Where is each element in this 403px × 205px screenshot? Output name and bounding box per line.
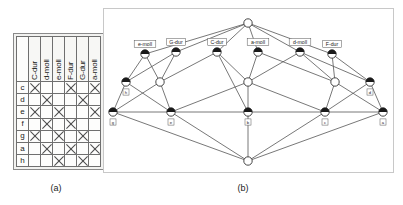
node-label-text: d-moll	[293, 39, 307, 45]
cell-e-F-dur	[65, 106, 77, 118]
table-row: d	[17, 94, 101, 106]
cross-mark-icon	[77, 131, 88, 142]
cell-e-a-moll	[89, 106, 101, 118]
column-header-e-moll: e-moll	[53, 37, 65, 82]
cross-mark-icon	[89, 106, 100, 117]
cross-mark-icon	[29, 106, 40, 117]
cell-d-C-dur	[29, 94, 41, 106]
cross-table: C-dur d-moll e-moll F-dur G-dur	[16, 36, 101, 167]
column-header-label: d-moll	[41, 36, 52, 81]
table-row: h	[17, 155, 101, 167]
cell-h-a-moll	[89, 155, 101, 167]
cell-e-C-dur	[29, 106, 41, 118]
row-header-c: c	[17, 82, 29, 94]
column-header-d-moll: d-moll	[41, 37, 53, 82]
cell-h-F-dur	[65, 155, 77, 167]
cell-a-e-moll	[53, 142, 65, 154]
cell-g-G-dur	[77, 130, 89, 142]
cell-e-G-dur	[77, 106, 89, 118]
lattice-node-m-right[interactable]	[331, 78, 339, 86]
column-header-f-dur: F-dur	[65, 37, 77, 82]
cross-mark-icon	[29, 131, 40, 142]
cell-c-a-moll	[89, 82, 101, 94]
column-header-label: C-dur	[29, 36, 40, 81]
cell-a-a-moll	[89, 142, 101, 154]
lattice-edge	[335, 82, 383, 112]
cell-h-e-moll	[53, 155, 65, 167]
lattice-edge	[325, 82, 335, 112]
lattice-node-m-cent[interactable]	[244, 78, 252, 86]
cross-mark-icon	[65, 143, 76, 154]
lattice-edge	[126, 54, 145, 82]
lattice-edge	[171, 112, 248, 161]
cross-mark-icon	[41, 143, 52, 154]
lattice-edge	[171, 82, 248, 112]
table-row: c	[17, 82, 101, 94]
lattice-diagram: e-mollG-durC-dura-molld-mollF-durhdgebca	[104, 9, 393, 172]
lattice-edge	[113, 82, 160, 112]
row-header-e: e	[17, 106, 29, 118]
cell-f-a-moll	[89, 118, 101, 130]
cross-mark-icon	[53, 131, 64, 142]
lattice-edge	[248, 112, 383, 161]
cross-table-frame: C-dur d-moll e-moll F-dur G-dur	[13, 33, 104, 170]
lattice-edge	[325, 82, 370, 112]
cell-a-d-moll	[41, 142, 53, 154]
cross-mark-icon	[41, 119, 52, 130]
caption-a: (a)	[31, 183, 81, 193]
cross-mark-icon	[89, 82, 100, 93]
cell-c-G-dur	[77, 82, 89, 94]
node-label-text: G-dur	[169, 39, 183, 45]
cross-table-head: C-dur d-moll e-moll F-dur G-dur	[17, 37, 101, 82]
row-header-d: d	[17, 94, 29, 106]
column-header-label: F-dur	[65, 36, 76, 81]
cross-mark-icon	[53, 155, 64, 166]
cell-f-G-dur	[77, 118, 89, 130]
lattice-node-top[interactable]	[244, 19, 252, 27]
node-label-text: F-dur	[326, 41, 339, 47]
cell-g-e-moll	[53, 130, 65, 142]
cross-mark-icon	[65, 82, 76, 93]
column-header-a-moll: a-moll	[89, 37, 101, 82]
lattice-edge	[258, 52, 335, 82]
column-header-label: a-moll	[89, 36, 100, 81]
cross-table-corner-cell	[17, 37, 29, 82]
lattice-edge	[248, 52, 300, 82]
panel-b-concept-lattice: e-mollG-durC-dura-molld-mollF-durhdgebca	[103, 8, 394, 173]
row-header-f: f	[17, 118, 29, 130]
lattice-node-bottom[interactable]	[244, 157, 252, 165]
cross-mark-icon	[77, 94, 88, 105]
cell-e-d-moll	[41, 106, 53, 118]
cell-d-d-moll	[41, 94, 53, 106]
cross-mark-icon	[53, 106, 64, 117]
cell-g-F-dur	[65, 130, 77, 142]
lattice-edge	[126, 82, 171, 112]
cross-mark-icon	[41, 94, 52, 105]
cross-table-body: cdefgah	[17, 82, 101, 167]
lattice-edge	[145, 54, 160, 82]
cell-a-F-dur	[65, 142, 77, 154]
cross-mark-icon	[29, 82, 40, 93]
column-header-g-dur: G-dur	[77, 37, 89, 82]
cell-c-d-moll	[41, 82, 53, 94]
node-label-text: e-moll	[138, 41, 152, 47]
cell-c-C-dur	[29, 82, 41, 94]
cross-mark-icon	[77, 155, 88, 166]
row-header-g: g	[17, 130, 29, 142]
table-row: g	[17, 130, 101, 142]
caption-b: (b)	[218, 183, 268, 193]
lattice-edge	[248, 112, 325, 161]
cell-c-F-dur	[65, 82, 77, 94]
row-header-a: a	[17, 142, 29, 154]
cell-f-F-dur	[65, 118, 77, 130]
cell-h-d-moll	[41, 155, 53, 167]
table-row: e	[17, 106, 101, 118]
cell-f-e-moll	[53, 118, 65, 130]
lattice-edge	[248, 23, 300, 52]
lattice-edge	[145, 23, 248, 54]
cell-a-G-dur	[77, 142, 89, 154]
column-header-label: e-moll	[53, 36, 64, 81]
table-row: a	[17, 142, 101, 154]
cell-d-F-dur	[65, 94, 77, 106]
lattice-node-m-left[interactable]	[156, 78, 164, 86]
